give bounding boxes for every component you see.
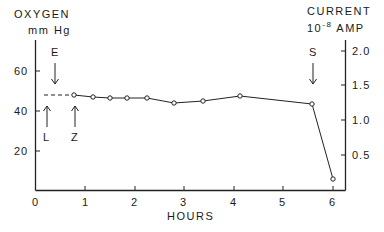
annotation-S: S <box>309 46 318 58</box>
arrow-S-icon <box>310 63 317 84</box>
left-axis-unit: mm Hg <box>28 24 71 36</box>
right-tick-0-5: 0.5 <box>352 149 370 161</box>
x-tick-2: 2 <box>131 196 138 208</box>
x-tick-4: 4 <box>230 196 237 208</box>
x-ticks <box>85 186 333 190</box>
x-tick-3: 3 <box>180 196 187 208</box>
left-tick-60: 60 <box>14 65 28 77</box>
x-tick-6: 6 <box>329 196 336 208</box>
x-axis-title: HOURS <box>167 210 214 222</box>
right-tick-2-0: 2.0 <box>352 45 370 57</box>
arrow-Z-icon <box>72 106 79 127</box>
right-tick-1-0: 1.0 <box>352 114 370 126</box>
annotation-L: L <box>43 131 51 143</box>
x-tick-5: 5 <box>279 196 286 208</box>
x-tick-1: 1 <box>82 196 89 208</box>
arrow-L-icon <box>44 106 51 127</box>
left-tick-20: 20 <box>14 145 28 157</box>
annotation-Z: Z <box>71 131 79 143</box>
oxygen-series-markers <box>72 93 335 181</box>
x-tick-0: 0 <box>32 196 39 208</box>
unit-name: AMP <box>336 22 364 34</box>
annotation-E: E <box>51 46 60 58</box>
right-tick-1-5: 1.5 <box>352 79 370 91</box>
oxygen-series-line <box>74 95 333 179</box>
left-axis-title: OXYGEN <box>14 8 70 20</box>
right-axis-unit: 10-8 AMP <box>307 20 365 34</box>
arrow-E-icon <box>52 63 59 84</box>
unit-exponent: -8 <box>322 20 332 29</box>
left-tick-40: 40 <box>14 105 28 117</box>
unit-base: 10 <box>307 22 322 34</box>
right-axis-title: CURRENT <box>307 5 371 17</box>
